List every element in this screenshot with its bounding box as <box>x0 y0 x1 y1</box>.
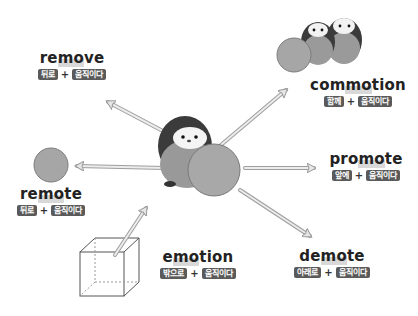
english-word: remove <box>26 49 118 67</box>
penguin-pushing-ball-icon <box>158 116 240 196</box>
meaning-formula: 앞에 + 움직이다 <box>318 170 414 181</box>
meaning-formula: 밖으로 + 움직이다 <box>146 268 250 279</box>
meaning-formula: 아래로 + 움직이다 <box>276 267 388 278</box>
root-meaning-tag: 움직이다 <box>358 96 392 107</box>
meaning-formula: 뒤로 + 움직이다 <box>6 205 96 216</box>
english-word: demote <box>276 247 388 265</box>
english-word: promote <box>318 150 414 168</box>
word-demote: demote 아래로 + 움직이다 <box>276 247 388 278</box>
ball-icon <box>34 148 68 182</box>
root-meaning-tag: 움직이다 <box>51 205 85 216</box>
mot-root-diagram: remove 뒤로 + 움직이다 commotion 함께 + 움직이다 rem… <box>0 0 418 316</box>
word-remove: remove 뒤로 + 움직이다 <box>26 49 118 80</box>
english-word: commotion <box>305 76 411 94</box>
prefix-meaning-tag: 뒤로 <box>17 205 37 216</box>
prefix-meaning-tag: 아래로 <box>294 267 321 278</box>
root-meaning-tag: 움직이다 <box>336 267 370 278</box>
arrow-emotion-icon <box>115 208 146 255</box>
two-penguins-icon <box>277 18 362 72</box>
plus-sign: + <box>40 205 48 216</box>
plus-sign: + <box>324 267 332 278</box>
plus-sign: + <box>355 170 363 181</box>
prefix-meaning-tag: 밖으로 <box>160 268 187 279</box>
english-word: emotion <box>146 248 250 266</box>
root-meaning-tag: 움직이다 <box>366 170 400 181</box>
meaning-formula: 함께 + 움직이다 <box>305 96 411 107</box>
arrow-commotion-icon <box>215 90 286 150</box>
word-promote: promote 앞에 + 움직이다 <box>318 150 414 181</box>
root-meaning-tag: 움직이다 <box>72 69 106 80</box>
prefix-meaning-tag: 뒤로 <box>38 69 58 80</box>
arrow-remote-icon <box>77 166 165 168</box>
root-meaning-tag: 움직이다 <box>202 268 236 279</box>
prefix-meaning-tag: 함께 <box>324 96 344 107</box>
plus-sign: + <box>61 69 69 80</box>
plus-sign: + <box>190 268 198 279</box>
meaning-formula: 뒤로 + 움직이다 <box>26 69 118 80</box>
word-remote: remote 뒤로 + 움직이다 <box>6 185 96 216</box>
prefix-meaning-tag: 앞에 <box>332 170 352 181</box>
english-word: remote <box>6 185 96 203</box>
cube-box-icon <box>80 238 139 296</box>
arrow-demote-icon <box>240 190 310 236</box>
plus-sign: + <box>347 96 355 107</box>
word-emotion: emotion 밖으로 + 움직이다 <box>146 248 250 279</box>
word-commotion: commotion 함께 + 움직이다 <box>305 76 411 107</box>
